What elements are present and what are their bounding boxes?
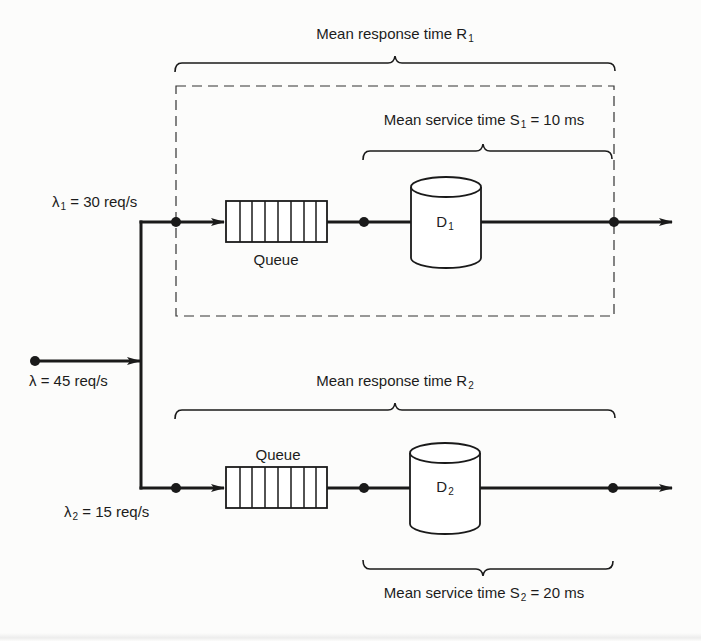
queueing-diagram: Mean response time R1 Mean service time … [0,0,701,641]
queue-label-1: Queue [253,251,298,269]
branch-1-flow [140,177,673,268]
split-node-2 [171,483,181,493]
response-time-label-2: Mean response time R2 [316,372,473,395]
arrival-rate-label-2: λ2 = 15 req/s [64,503,149,526]
service-time-brace-1 [363,144,612,160]
response-time-brace-2 [175,403,615,419]
device-label-d1: D1 [436,213,453,236]
diagram-graphics [0,0,701,641]
source-node [30,356,40,366]
response-time-brace-1 [175,56,615,72]
service-time-label-2: Mean service time S2 = 20 ms [384,584,584,607]
response-time-label-1: Mean response time R1 [316,25,473,48]
device-label-d2: D2 [436,478,453,501]
input-flow [30,221,141,490]
device-entry-node-2 [359,483,369,493]
service-time-brace-2 [363,560,613,576]
total-arrival-rate-label: λ = 45 req/s [29,372,108,390]
service-time-label-1: Mean service time S1 = 10 ms [384,111,584,134]
branch-2-flow [140,443,673,534]
cropped-caption-strip [0,633,701,641]
exit-node-2 [608,483,618,493]
arrival-rate-label-1: λ1 = 30 req/s [52,193,137,216]
queue-label-2: Queue [255,446,300,464]
split-node-1 [171,217,181,227]
queue-2-icon [226,467,327,508]
queue-1-icon [226,201,327,242]
exit-node-1 [609,217,619,227]
device-entry-node-1 [359,217,369,227]
